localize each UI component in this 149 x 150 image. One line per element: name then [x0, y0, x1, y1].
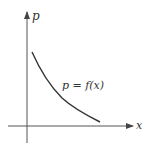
x-axis-label: x: [136, 119, 143, 132]
graph: p x p = f(x): [0, 0, 149, 150]
curve-label: p = f(x): [62, 79, 104, 92]
y-axis-label: p: [32, 9, 40, 23]
